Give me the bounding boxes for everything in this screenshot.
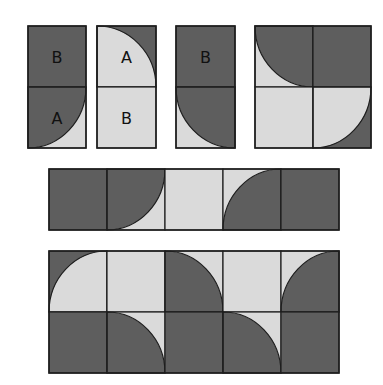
tile-cell bbox=[49, 169, 107, 230]
cell-label: B bbox=[121, 109, 132, 128]
tile-cell bbox=[176, 87, 235, 148]
tile-2: AB bbox=[96, 25, 157, 149]
tile-3: B bbox=[175, 25, 236, 149]
tile-cell: B bbox=[176, 26, 235, 87]
tile-cell bbox=[281, 169, 339, 230]
tile-1: BA bbox=[27, 25, 87, 149]
tile-cell bbox=[49, 312, 107, 373]
tile-cell bbox=[313, 26, 371, 87]
tile-cell bbox=[165, 251, 223, 312]
tile-cell bbox=[165, 169, 223, 230]
tile-cell bbox=[49, 251, 107, 312]
cell-label: A bbox=[121, 48, 132, 67]
tile-cell bbox=[165, 312, 223, 373]
tile-cell bbox=[313, 87, 371, 148]
tile-cell bbox=[107, 169, 165, 230]
tile-cell bbox=[255, 87, 313, 148]
cell-label: B bbox=[200, 48, 211, 67]
cell-label: B bbox=[52, 48, 63, 67]
tile-cell bbox=[281, 312, 339, 373]
tile-4 bbox=[254, 25, 372, 149]
tile-cell: A bbox=[97, 26, 156, 87]
cell-label: A bbox=[52, 109, 63, 128]
row-3 bbox=[48, 250, 340, 374]
tile-cell bbox=[107, 251, 165, 312]
tile-cell bbox=[255, 26, 313, 87]
tile-cell: A bbox=[28, 87, 86, 148]
tile-cell bbox=[223, 169, 281, 230]
tile-cell bbox=[107, 312, 165, 373]
tile-cell: B bbox=[97, 87, 156, 148]
tile-cell bbox=[281, 251, 339, 312]
tile-cell: B bbox=[28, 26, 86, 87]
tile-cell bbox=[223, 251, 281, 312]
row-2 bbox=[48, 168, 340, 231]
tile-cell bbox=[223, 312, 281, 373]
